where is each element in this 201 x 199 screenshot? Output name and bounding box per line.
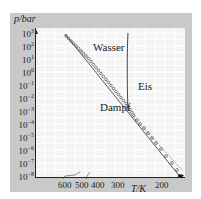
x-tick: 600 <box>58 180 72 190</box>
x-tick-leaders <box>0 0 201 199</box>
x-axis-label: T/K <box>131 183 146 194</box>
x-tick: 400 <box>91 180 105 190</box>
x-tick: 200 <box>155 180 169 190</box>
x-tick: 500 <box>75 180 89 190</box>
x-tick: 300 <box>111 180 125 190</box>
